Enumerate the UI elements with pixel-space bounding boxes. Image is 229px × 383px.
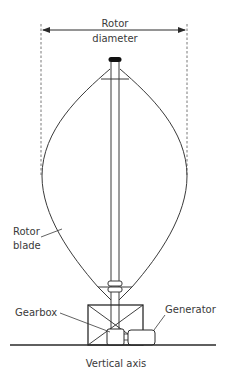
gearbox-label: Gearbox xyxy=(15,307,57,319)
left-rotor-blade xyxy=(42,69,111,300)
rotor-diameter-label-line2: diameter xyxy=(92,33,137,45)
rotor-diameter-label-line1: Rotor xyxy=(102,18,129,30)
rotor-diameter-dimension xyxy=(41,24,187,176)
top-bearing-cap xyxy=(109,57,122,62)
rotor-blades xyxy=(42,69,187,300)
support-struts xyxy=(98,79,132,287)
gearbox-unit xyxy=(107,329,124,345)
rotor-blade-label-line2: blade xyxy=(13,240,41,252)
generator-label: Generator xyxy=(165,304,216,316)
leader-lines xyxy=(41,229,165,332)
generator xyxy=(128,330,155,345)
diagram-caption: Vertical axis xyxy=(86,358,147,370)
rotor-blade-label-line1: Rotor xyxy=(13,226,40,238)
generator-leader xyxy=(154,315,165,330)
wind-turbine-diagram xyxy=(0,0,229,383)
coupling xyxy=(108,281,122,292)
right-rotor-blade xyxy=(119,69,187,300)
